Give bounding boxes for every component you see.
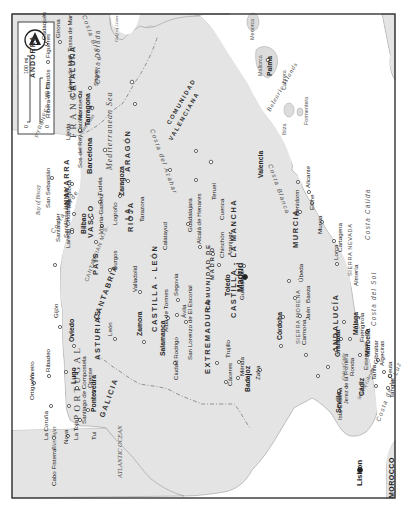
label-formentera: Formentera [303,96,309,125]
label-la-toja: La Toja [72,420,79,440]
label-castilla-leon: CASTILLA - LEÓN [150,245,159,332]
label-cabo-fisterra: Cabo Fisterra [50,448,57,486]
label-almeria: Almería [352,264,359,286]
label-gijon: Gijón [52,303,59,318]
label-jaen: Jaén [304,306,311,320]
spain-map: 100 mi 100 km 0 0 FRANCE PORTUGAL MOROCC… [0,0,406,506]
label-rioja: RIOJA [126,201,135,232]
label-salamanca: Salamanca [159,320,166,356]
label-cordoba: Córdoba [276,312,283,340]
label-badajoz: Badajoz [244,365,252,392]
label-calatayud: Calatayud [161,222,168,250]
label-alcala: Alcalá de Henares [195,193,202,244]
label-segovia: Segovia [172,273,179,296]
label-girona: Girona [54,19,61,38]
label-sitges: Sitges [92,69,99,86]
island-ibiza [284,103,294,117]
label-costa-del-sol: Costa del Sol [370,272,377,326]
label-algeciras: Algeciras [378,341,385,366]
label-carmona: Carmona [300,319,307,345]
label-zamora: Zamora [136,311,143,336]
label-palma: Palma [266,56,273,76]
label-menorca: Menorca [249,18,255,40]
label-cadiz: Cádiz [358,377,365,396]
label-san-sebastian: San Sebastián [44,167,51,208]
label-lleida: Lleida [64,123,71,140]
label-alicante: Alicante [304,165,311,188]
label-zaragoza: Zaragoza [118,166,126,196]
label-tui: Tui [90,432,97,440]
label-lloret: Lloret de Mar [66,56,73,92]
label-trujillo: Trujillo [224,339,231,358]
label-ribera: Ribera de Cardós [44,70,51,119]
label-cabrera: Cabrera [281,69,287,90]
scale-zero-km: 0 [44,125,50,128]
label-aranjuez: Aranjuez [226,232,233,256]
scale-zero-mi: 0 [23,125,29,128]
label-ronda: Ronda [348,357,355,376]
label-teruel: Teruel [210,183,217,200]
label-mallorca: Mallorca [257,54,263,76]
label-ciudad-rodrigo: Ciudad Rodrigo [172,336,179,380]
label-isla-cristina: Isla Cristina [336,387,343,420]
label-costa-calida: Costa Cálida [364,188,371,240]
label-benidorm: Benidorm [293,190,300,216]
label-barcelona: Barcelona [85,137,94,174]
label-tarragona: Tarragona [84,93,92,126]
label-gulf-of-lions: Gulf of Lions [114,16,119,42]
label-granada: Granada [334,329,341,357]
label-bilbao: Bilbao [80,213,87,234]
label-fuengirola: Fuengirola [358,312,365,342]
label-marbella: Marbella [364,328,371,356]
label-orense: Orense [86,367,93,388]
label-chinchon: Chinchón [218,231,225,258]
label-tudela: Tudela [96,177,103,196]
label-valladolid: Valladolid [131,265,138,292]
label-santillana: Santillana del Mar [62,188,69,238]
label-ortigueira: Ortigueira [28,372,35,400]
label-baeza: Baeza [304,285,311,303]
label-andorra: ANDORRA [29,35,36,78]
label-murcia-city: Murcia [316,215,323,234]
label-extremadura: EXTREMADURA [203,299,212,374]
label-figueres: Figueres [44,34,51,58]
label-santander: Santander [54,213,61,242]
label-noya: Noya [62,429,69,444]
label-aragon: ARAGÓN [123,130,132,172]
label-lisbon: Lisbon [355,460,364,486]
label-cuenca: Cuenca [218,198,225,220]
label-toledo: Toledo [224,274,231,296]
label-valencia: Valencia [257,151,264,178]
label-pais: PAÍS [91,252,100,275]
label-tarazona: Tarazona [138,196,145,222]
label-tossa: Tossa de Mar [66,15,73,52]
label-ubeda: Úbeda [297,263,304,282]
label-tangier: Tangier [388,378,395,398]
label-burgos: Burgos [111,250,118,270]
label-lugo: Lugo [70,367,78,384]
label-caceres: Cáceres [226,363,233,386]
label-logrono: Logroño [111,202,118,225]
label-la-coruna: La Coruña [42,411,49,440]
label-zafra: Zafra [254,365,261,380]
label-guadalupe: Guadalupe [238,269,245,300]
label-vasco: VASCO [86,204,95,238]
label-santiago: Santiago de Compostela [80,356,87,424]
label-mediterranean-sea: Mediterranean Sea [105,91,114,171]
label-elche: Elche [308,194,315,210]
label-vitoria: Vitoria-Gasteiz [97,194,104,234]
label-ceuta: Ceuta [386,361,393,378]
label-ibiza: Ibiza [281,122,287,135]
label-atlantic-ocean: ATLANTIC OCEAN [116,425,123,479]
label-guadalajara: Guadalajara [186,198,193,232]
label-bay-of-biscay: Bay of Biscay [35,184,41,215]
label-oviedo: Oviedo [68,319,75,342]
label-ribadeo: Ribadeo [44,348,51,372]
label-leon: León [106,322,113,336]
label-tarifa: Tarifa [370,364,377,380]
label-madrid-region: MADRID [209,246,215,280]
label-castilla-la-mancha: CASTILLA - LA MANCHA [229,199,238,318]
label-escorial: San Lorenzo de El Escorial [186,285,193,360]
label-cartagena: Cartagena [336,223,343,252]
label-morocco: MOROCCO [388,457,395,498]
